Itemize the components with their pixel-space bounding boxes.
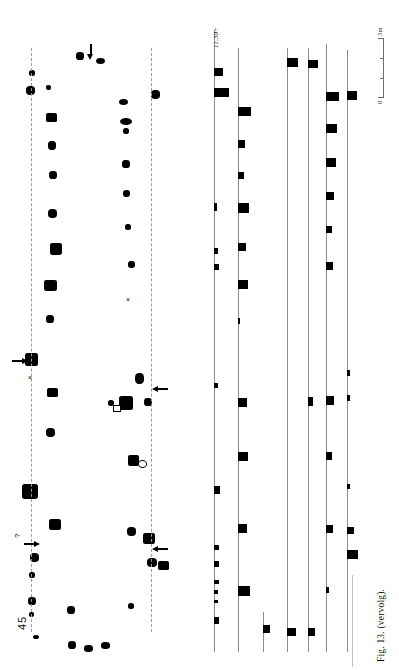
arrow-head <box>34 541 40 547</box>
posthole <box>135 373 144 384</box>
posthole <box>49 171 57 179</box>
section-posthole-block <box>326 124 337 133</box>
section-posthole-block <box>238 140 245 148</box>
posthole <box>48 209 57 218</box>
posthole <box>125 224 131 230</box>
posthole <box>49 519 61 530</box>
section-posthole-block <box>347 91 357 100</box>
posthole <box>101 642 110 649</box>
posthole <box>29 572 35 578</box>
scale-bar-zero-label: 0 <box>376 101 383 104</box>
scale-bar-cap-top <box>378 38 384 39</box>
arrow-head <box>152 386 158 392</box>
plan-axis-line <box>151 48 152 632</box>
figure-caption: Fig. 13. (vervolg). <box>376 589 386 662</box>
section-posthole-block <box>326 525 333 533</box>
scale-bar-cap-bottom <box>378 97 384 98</box>
posthole <box>46 113 57 122</box>
section-profile-line <box>347 50 348 652</box>
posthole <box>120 118 132 125</box>
section-posthole-block <box>214 561 219 567</box>
section-posthole-block <box>238 172 244 179</box>
section-posthole-block <box>214 590 218 594</box>
open-circle-marker <box>138 460 147 468</box>
direction-arrow-right <box>24 541 41 558</box>
section-posthole-block <box>326 192 334 200</box>
open-square-marker <box>113 405 121 412</box>
section-posthole-block <box>326 158 336 167</box>
posthole <box>123 190 130 197</box>
section-posthole-block <box>214 617 219 624</box>
section-posthole-block <box>214 203 217 211</box>
x-marker: × <box>28 374 32 381</box>
section-posthole-block <box>263 625 270 633</box>
posthole <box>46 85 51 90</box>
posthole <box>68 641 76 649</box>
posthole <box>143 533 155 544</box>
section-posthole-block <box>238 452 248 461</box>
plan-number-label: 45 <box>16 616 28 630</box>
direction-arrow-left <box>152 546 169 563</box>
section-posthole-block <box>287 628 296 636</box>
figure-page: ××? 45 11.30+ 3m 0 Fig. 13. (vervolg). <box>0 0 399 670</box>
scale-bar-tick <box>380 78 384 79</box>
depth-datum-label: 11.30+ <box>212 27 220 48</box>
posthole <box>128 603 134 609</box>
arrow-shaft <box>157 388 168 390</box>
posthole <box>151 90 160 99</box>
section-posthole-block <box>214 264 219 270</box>
arrow-head <box>152 546 158 552</box>
posthole <box>46 315 54 323</box>
section-posthole-block <box>287 58 298 67</box>
posthole <box>119 396 133 410</box>
section-posthole-block <box>347 550 358 559</box>
section-posthole-block <box>308 628 315 636</box>
section-posthole-block <box>238 398 247 407</box>
direction-arrow-left <box>152 386 169 403</box>
arrow-shaft <box>157 548 168 550</box>
section-posthole-block <box>214 486 220 494</box>
section-posthole-block <box>214 383 218 388</box>
section-profile-line <box>326 44 327 652</box>
posthole <box>46 428 55 437</box>
section-posthole-block <box>214 580 219 584</box>
section-profile-line <box>287 48 288 652</box>
posthole <box>119 99 128 105</box>
posthole <box>33 635 39 639</box>
question-marker: ? <box>14 534 22 538</box>
section-posthole-block <box>326 587 329 593</box>
posthole <box>76 52 84 60</box>
section-posthole-block <box>326 92 339 101</box>
section-posthole-block <box>214 545 219 550</box>
section-posthole-block <box>347 395 350 401</box>
section-posthole-block <box>214 600 218 603</box>
posthole <box>67 606 75 614</box>
arrow-head <box>87 54 93 60</box>
section-posthole-block <box>214 68 223 76</box>
posthole <box>122 160 130 168</box>
section-posthole-block <box>238 107 251 116</box>
posthole <box>22 484 38 499</box>
posthole <box>123 128 129 134</box>
scale-bar-tick <box>380 58 384 59</box>
posthole <box>47 388 58 397</box>
section-posthole-block <box>326 452 332 460</box>
section-posthole-block <box>214 88 229 97</box>
posthole <box>29 70 35 76</box>
section-posthole-block <box>326 396 334 405</box>
section-posthole-block <box>214 248 218 254</box>
scale-bar-max-label: 3m <box>376 27 383 36</box>
posthole <box>128 261 135 268</box>
arrow-head <box>22 358 28 364</box>
section-posthole-block <box>347 370 350 376</box>
posthole <box>127 527 136 536</box>
section-posthole-block <box>238 586 250 596</box>
section-posthole-block <box>238 203 249 213</box>
x-marker: × <box>126 296 130 303</box>
posthole <box>50 243 62 255</box>
section-posthole-block <box>326 226 332 233</box>
section-posthole-block <box>238 280 248 289</box>
scale-bar-rule <box>383 38 384 98</box>
ground-plan: ××? 45 <box>0 0 200 670</box>
direction-arrow-right <box>12 358 29 375</box>
